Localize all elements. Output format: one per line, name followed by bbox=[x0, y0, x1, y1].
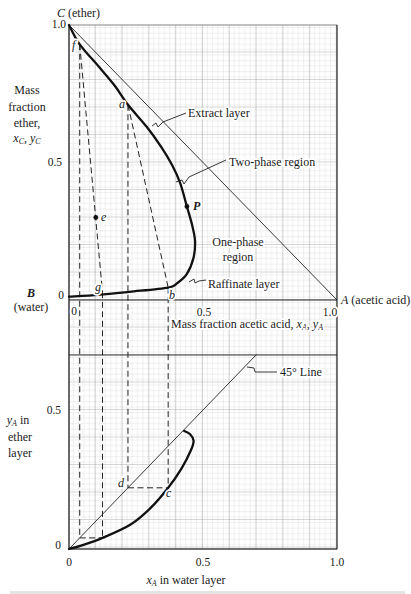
point-c-label: c bbox=[166, 486, 172, 500]
bottom-x-tick-05: 0.5 bbox=[196, 556, 211, 568]
point-a-label: a bbox=[119, 97, 125, 111]
raffinate-layer-label: Raffinate layer bbox=[208, 277, 279, 291]
vertex-a-label: A(acetic acid) bbox=[340, 293, 410, 307]
svg-text:xC, yC: xC, yC bbox=[12, 131, 41, 146]
top-x-tick-1: 1.0 bbox=[323, 306, 338, 318]
vertex-b-symbol: B bbox=[26, 286, 35, 300]
bottom-y-tick-0: 0 bbox=[55, 539, 61, 551]
top-y-tick-1: 1.0 bbox=[52, 18, 67, 30]
point-P-label: P bbox=[193, 199, 201, 213]
two-phase-region-label: Two-phase region bbox=[229, 155, 315, 169]
bottom-y-axis-label: yA in ether layer bbox=[6, 413, 32, 460]
extract-layer-label: Extract layer bbox=[188, 106, 250, 120]
point-b-label: b bbox=[169, 288, 175, 302]
top-y-axis-label: Mass fraction ether, xC, yC bbox=[8, 83, 45, 146]
point-g-label: g bbox=[95, 280, 101, 294]
svg-text:ether,: ether, bbox=[14, 116, 41, 130]
svg-text:fraction: fraction bbox=[8, 100, 45, 114]
top-x-tick-0: 0 bbox=[71, 305, 77, 317]
svg-text:yA in: yA in bbox=[6, 413, 30, 428]
one-phase-region-label-line2: region bbox=[223, 250, 254, 264]
svg-text:ether: ether bbox=[8, 430, 32, 444]
phase-diagram-figure: C(ether) 1.0 0.5 0 Mass fraction ether, … bbox=[0, 0, 411, 594]
bottom-y-tick-05: 0.5 bbox=[47, 404, 62, 416]
point-d-label: d bbox=[118, 476, 125, 490]
top-x-axis-label: Mass fraction acetic acid, xA, yA bbox=[171, 317, 323, 332]
svg-text:layer: layer bbox=[8, 446, 32, 460]
graph-paper-grid bbox=[69, 25, 337, 549]
top-y-tick-05: 0.5 bbox=[48, 156, 63, 168]
line-45-label: 45° Line bbox=[280, 365, 322, 379]
point-e-marker bbox=[93, 215, 98, 220]
svg-text:Mass: Mass bbox=[14, 83, 40, 97]
bottom-x-tick-1: 1.0 bbox=[330, 556, 345, 568]
point-P-marker bbox=[185, 204, 190, 209]
point-e-label: e bbox=[101, 210, 107, 224]
bottom-x-axis-label: xA in water layer bbox=[145, 573, 225, 588]
bottom-x-tick-0: 0 bbox=[66, 556, 72, 568]
top-y-tick-0: 0 bbox=[58, 289, 64, 301]
vertex-b-name: (water) bbox=[14, 300, 49, 314]
one-phase-region-label-line1: One-phase bbox=[212, 235, 263, 249]
